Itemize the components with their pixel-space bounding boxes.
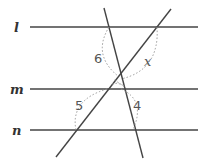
angle-label-5: 5 bbox=[75, 98, 83, 113]
angle-label-x: x bbox=[144, 54, 152, 69]
parallel-lines bbox=[30, 27, 198, 130]
label-n: n bbox=[12, 123, 21, 138]
transversal-diagonal bbox=[56, 9, 171, 157]
label-m: m bbox=[10, 82, 24, 97]
transversals bbox=[56, 8, 171, 158]
label-l: l bbox=[14, 20, 19, 35]
transversal-steep bbox=[104, 8, 143, 158]
angle-label-6: 6 bbox=[94, 51, 102, 66]
geometry-diagram: l m n 6 x 5 4 bbox=[0, 0, 208, 167]
angle-label-4: 4 bbox=[133, 98, 141, 113]
